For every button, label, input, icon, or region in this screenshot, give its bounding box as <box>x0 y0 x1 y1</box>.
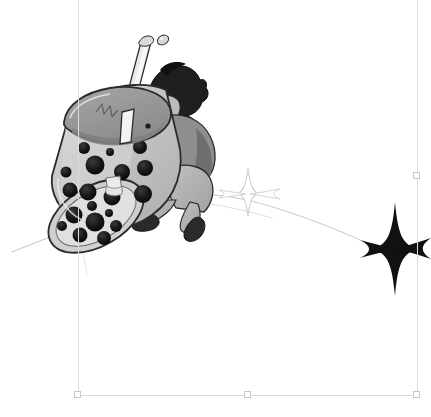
illustration-canvas[interactable] <box>0 0 431 417</box>
sparkle-solid-group <box>360 202 431 296</box>
handle-bottom-left[interactable] <box>74 391 81 398</box>
handle-bottom-right[interactable] <box>413 391 420 398</box>
artwork-svg <box>0 0 431 417</box>
selection-guide-left <box>78 0 79 395</box>
sparkle-outline-group <box>219 168 280 216</box>
selection-guide-right <box>417 0 418 395</box>
handle-middle-right[interactable] <box>413 172 420 179</box>
handle-bottom-center[interactable] <box>244 391 251 398</box>
boba-cup-group <box>36 85 181 268</box>
